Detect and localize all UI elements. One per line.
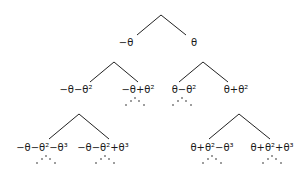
tree-edge [137,15,161,35]
tree-edge [179,62,203,82]
node-label: −θ [119,37,134,48]
node-label: −θ−θ² [59,84,92,95]
tree-edge [209,114,239,139]
node-label: θ+θ²+θ³ [250,142,293,153]
tree-edge [49,114,79,139]
node-label: θ−θ² [172,84,197,95]
ellipsis-dots-icon [202,155,222,164]
ellipsis-dots-icon [262,155,282,164]
tree-edges [49,15,270,139]
binary-tree-diagram: −θθ−θ−θ²−θ+θ²θ−θ²θ+θ²−θ−θ²−θ³−θ−θ²+θ³θ+θ… [0,0,307,174]
continuation-dots [36,97,282,164]
node-label: −θ+θ² [121,84,154,95]
node-label: θ [191,37,197,48]
tree-edge [239,114,270,139]
tree-edge [114,62,138,82]
node-label: −θ−θ²−θ³ [16,142,68,153]
node-label: −θ−θ²+θ³ [77,142,129,153]
node-label: θ+θ² [224,84,249,95]
tree-edge [90,62,114,82]
tree-edge [79,114,109,139]
ellipsis-dots-icon [172,97,192,106]
ellipsis-dots-icon [36,155,56,164]
ellipsis-dots-icon [125,97,145,106]
node-label: θ+θ²−θ³ [190,142,233,153]
node-labels: −θθ−θ−θ²−θ+θ²θ−θ²θ+θ²−θ−θ²−θ³−θ−θ²+θ³θ+θ… [16,37,293,153]
tree-edge [161,15,186,35]
ellipsis-dots-icon [95,155,115,164]
tree-svg: −θθ−θ−θ²−θ+θ²θ−θ²θ+θ²−θ−θ²−θ³−θ−θ²+θ³θ+θ… [0,0,307,174]
tree-edge [203,62,228,82]
